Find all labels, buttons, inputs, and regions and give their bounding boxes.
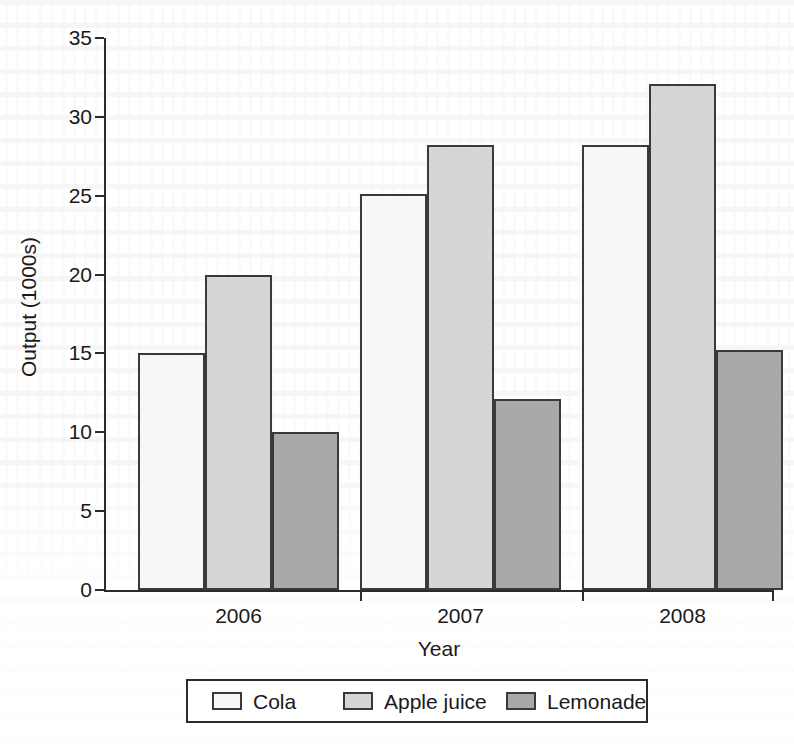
bar	[138, 353, 205, 590]
y-tick-label: 25	[48, 185, 92, 206]
bar	[649, 84, 716, 590]
y-tick-mark	[95, 37, 104, 39]
legend-entry[interactable]: Apple juice	[343, 681, 487, 721]
legend-swatch-icon	[212, 692, 242, 710]
y-axis-line	[104, 38, 106, 592]
y-tick-label: 35	[48, 27, 92, 48]
bar	[205, 275, 272, 590]
y-tick-mark	[95, 431, 104, 433]
x-axis-title: Year	[104, 637, 774, 661]
legend-label: Apple juice	[384, 691, 487, 712]
bar	[582, 145, 649, 590]
legend-swatch-icon	[343, 692, 373, 710]
bar	[427, 145, 494, 590]
y-tick-mark	[95, 195, 104, 197]
legend-label: Cola	[253, 691, 296, 712]
legend-entry[interactable]: Cola	[212, 681, 296, 721]
x-tick-mark	[360, 590, 362, 601]
y-tick-mark	[95, 274, 104, 276]
bar	[272, 432, 339, 590]
bar	[716, 350, 783, 590]
y-tick-label: 0	[48, 579, 92, 600]
bar-chart-figure: 05101520253035 200620072008 Output (1000…	[0, 0, 794, 750]
legend-entry[interactable]: Lemonade	[506, 681, 646, 721]
x-tick-label: 2006	[179, 604, 299, 628]
y-tick-label: 10	[48, 421, 92, 442]
x-axis-end-tick	[772, 590, 774, 601]
bar	[494, 399, 561, 590]
y-tick-mark	[95, 352, 104, 354]
legend-swatch-icon	[506, 692, 536, 710]
y-tick-mark	[95, 116, 104, 118]
y-axis-title: Output (1000s)	[17, 197, 41, 417]
y-tick-mark	[95, 510, 104, 512]
y-tick-mark	[95, 589, 104, 591]
bar	[360, 194, 427, 590]
x-axis-line	[104, 590, 774, 592]
y-tick-label: 5	[48, 500, 92, 521]
x-tick-label: 2007	[401, 604, 521, 628]
y-tick-label: 15	[48, 342, 92, 363]
legend-label: Lemonade	[547, 691, 646, 712]
y-tick-label: 30	[48, 106, 92, 127]
x-tick-mark	[582, 590, 584, 601]
chart-legend: ColaApple juiceLemonade	[186, 679, 648, 723]
x-tick-label: 2008	[623, 604, 743, 628]
y-tick-label: 20	[48, 264, 92, 285]
